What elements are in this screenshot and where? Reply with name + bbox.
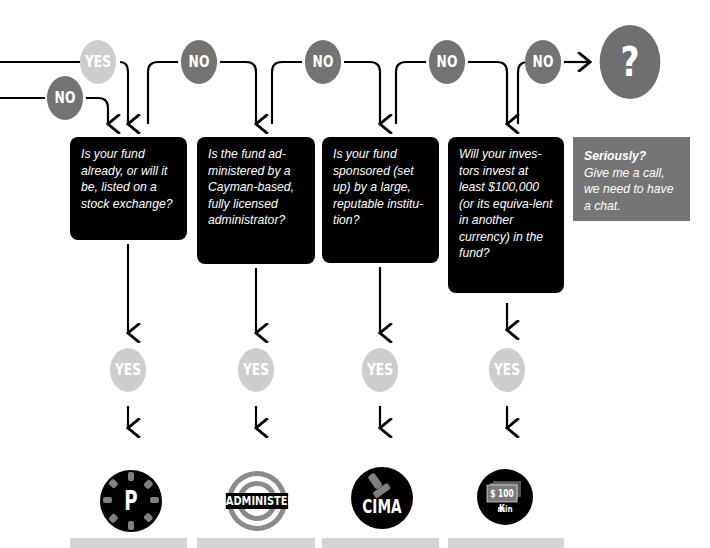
administered-icon-label: ADMINISTERED <box>226 493 288 509</box>
bottom-bar-2 <box>197 538 315 548</box>
final-message-box: Seriously? Give me a call, we need to ha… <box>573 137 690 221</box>
question-box-sponsored: Is your fund sponsored (set up) by a lar… <box>322 137 439 263</box>
final-text: Give me a call, we need to have a chat. <box>584 166 673 213</box>
listed-icon-label: P <box>109 470 152 532</box>
listed-fund-icon: P <box>100 470 162 532</box>
q1-yes-badge: YES <box>110 348 146 392</box>
q2-yes-badge: YES <box>238 348 274 392</box>
money-icon-sublabel: min <box>483 504 528 514</box>
start-yes-badge: YES <box>80 40 116 84</box>
q3-no-badge: NO <box>429 40 465 84</box>
question-text: Is your fund sponsored (set up) by a lar… <box>333 147 423 227</box>
question-box-listed: Is your fund already, or will it be, lis… <box>70 137 187 240</box>
start-no-badge: NO <box>47 76 83 120</box>
question-box-investment: Will your inves-tors invest at least $10… <box>448 137 564 293</box>
q1-no-badge: NO <box>181 40 217 84</box>
question-mark-badge: ? <box>600 25 661 99</box>
money-100k-icon: $ 100 K min <box>477 469 533 525</box>
bottom-bar-3 <box>322 538 439 548</box>
administered-icon: ADMINISTERED <box>225 469 289 533</box>
question-box-administered: Is the fund ad-ministered by a Cayman-ba… <box>197 137 315 264</box>
question-text: Will your inves-tors invest at least $10… <box>459 147 552 260</box>
q4-yes-badge: YES <box>489 348 525 392</box>
q2-no-badge: NO <box>305 40 341 84</box>
bottom-bar-1 <box>70 538 187 548</box>
final-title: Seriously? <box>584 149 646 163</box>
q4-no-badge: NO <box>525 40 561 84</box>
question-text: Is the fund ad-ministered by a Cayman-ba… <box>208 147 294 227</box>
question-text: Is your fund already, or will it be, lis… <box>81 147 172 211</box>
q3-yes-badge: YES <box>362 348 398 392</box>
cima-icon-label: CIMA <box>360 495 405 517</box>
cima-stamp-icon: CIMA <box>351 467 413 529</box>
bottom-bar-4 <box>448 538 564 548</box>
